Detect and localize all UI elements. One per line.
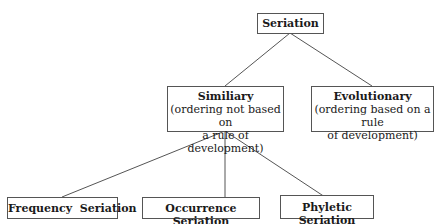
node-phyletic-label: Phyletic Seriation — [281, 201, 373, 224]
node-similiary: Similiary (ordering not based on a rule … — [167, 86, 284, 132]
node-similiary-desc-1: (ordering not based on — [168, 103, 283, 129]
node-similiary-title: Similiary — [168, 90, 283, 103]
node-similiary-desc-2: a rule of development) — [168, 129, 283, 155]
node-evolutionary: Evolutionary (ordering based on a rule o… — [311, 86, 434, 132]
connector-root-to-similiary — [225, 33, 290, 86]
node-frequency-label: Frequency Seriation — [8, 202, 117, 215]
connector-root-to-evolutionary — [290, 33, 372, 86]
node-evolutionary-desc-2: of development) — [312, 129, 433, 142]
node-seriation: Seriation — [257, 13, 324, 34]
node-occurrence-label: Occurrence Seriation — [143, 202, 259, 224]
node-evolutionary-desc-1: (ordering based on a rule — [312, 103, 433, 129]
node-phyletic-seriation: Phyletic Seriation — [280, 195, 374, 219]
node-evolutionary-title: Evolutionary — [312, 90, 433, 103]
node-frequency-seriation: Frequency Seriation — [7, 197, 118, 219]
node-seriation-label: Seriation — [258, 17, 323, 30]
node-occurrence-seriation: Occurrence Seriation — [142, 197, 260, 219]
